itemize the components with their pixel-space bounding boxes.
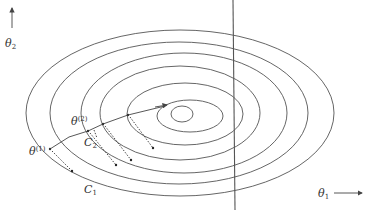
optimization-path (50, 106, 165, 149)
contour-ellipse-3 (81, 53, 287, 173)
gradient-endpoints (71, 147, 154, 172)
contour-diagram (0, 0, 370, 210)
theta2-axis-label: θ2 (5, 38, 16, 51)
contour-ellipse-2 (50, 42, 308, 184)
theta1-axis-label: θ1 (318, 188, 329, 201)
c2-label: C2 (84, 137, 97, 150)
c1-label: C1 (84, 184, 97, 197)
theta-1-label: θ(1) (29, 146, 46, 157)
contour-ellipse-4 (100, 66, 260, 160)
constraint-line (233, 0, 235, 210)
contour-ellipse-5 (127, 83, 243, 145)
contour-ellipse-7 (171, 106, 193, 122)
theta-2-label: θ(2) (71, 116, 88, 127)
